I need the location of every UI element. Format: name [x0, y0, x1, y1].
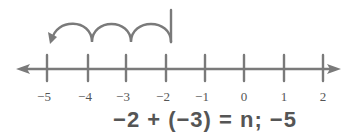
jump-arcs	[52, 24, 171, 42]
tick-label: −2	[156, 89, 170, 105]
tick-label: −4	[78, 89, 92, 105]
tick-label: −3	[116, 89, 130, 105]
equation: −2 + (−3) = n; −5	[0, 107, 350, 133]
tick-label: 0	[241, 89, 248, 105]
tick-label: 1	[281, 89, 288, 105]
jump-arrow-icon	[48, 32, 57, 44]
tick-label: −1	[195, 89, 209, 105]
tick-label: 2	[320, 89, 327, 105]
tick-label: −5	[37, 89, 51, 105]
